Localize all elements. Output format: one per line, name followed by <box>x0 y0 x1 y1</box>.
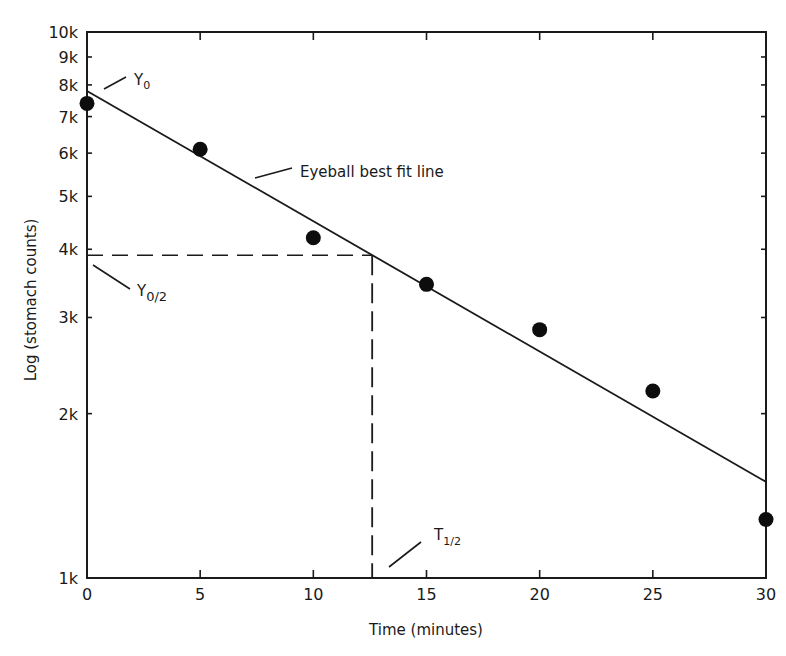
y-tick-label: 10k <box>48 23 78 42</box>
y0half-label: Y0/2 <box>136 282 167 304</box>
y-tick-label: 6k <box>59 144 79 163</box>
plot-frame <box>87 32 766 578</box>
data-point <box>419 277 434 292</box>
y0half-leader <box>93 265 130 289</box>
y-axis: 1k2k3k4k5k6k7k8k9k10k <box>48 23 766 588</box>
x-tick-label: 5 <box>195 585 205 604</box>
data-point <box>80 96 95 111</box>
x-axis: 051015202530 <box>82 32 776 604</box>
x-tick-label: 25 <box>643 585 663 604</box>
data-point <box>532 322 547 337</box>
y-tick-label: 3k <box>59 308 79 327</box>
thalf-leader <box>389 542 421 567</box>
x-tick-label: 0 <box>82 585 92 604</box>
x-tick-label: 15 <box>416 585 436 604</box>
fit-line-leader <box>255 168 292 178</box>
data-point <box>645 384 660 399</box>
x-tick-label: 10 <box>303 585 323 604</box>
y-axis-title: Log (stomach counts) <box>22 219 40 382</box>
y-tick-label: 5k <box>59 187 79 206</box>
chart: 051015202530 1k2k3k4k5k6k7k8k9k10k Y0 Ey… <box>0 0 786 656</box>
y0-label: Y0 <box>133 71 150 92</box>
y-tick-label: 2k <box>59 405 79 424</box>
fit-line-label: Eyeball best fit line <box>300 163 444 181</box>
plot-border <box>87 32 766 578</box>
x-tick-label: 20 <box>529 585 549 604</box>
y-tick-label: 7k <box>59 108 79 127</box>
y-tick-label: 8k <box>59 76 79 95</box>
y-tick-label: 9k <box>59 48 79 67</box>
thalf-label: T1/2 <box>433 526 461 548</box>
reference-lines <box>87 255 372 578</box>
x-axis-title: Time (minutes) <box>368 621 483 639</box>
x-tick-label: 30 <box>756 585 776 604</box>
data-point <box>306 230 321 245</box>
data-point <box>193 142 208 157</box>
y0-leader <box>104 77 126 89</box>
data-point <box>759 512 774 527</box>
data-points <box>80 96 774 527</box>
y-tick-label: 4k <box>59 240 79 259</box>
y-tick-label: 1k <box>59 569 79 588</box>
